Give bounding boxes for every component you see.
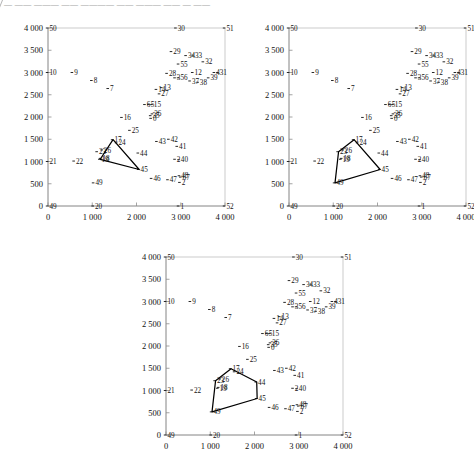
y-tick-label: 2 500 (265, 90, 284, 100)
y-tick-label: 500 (271, 179, 284, 189)
data-point-label: 33 (436, 52, 444, 60)
data-point-label: 8 (212, 306, 216, 314)
y-tick-label: 1 500 (24, 134, 43, 144)
data-point-label: 22 (194, 387, 202, 395)
y-tick-label: 1 000 (24, 157, 43, 167)
data-point-label: 56 (298, 303, 306, 311)
data-point-label: 51 (344, 254, 352, 262)
data-point-label: 43 (159, 138, 167, 146)
x-tick-label: 3 000 (289, 441, 308, 451)
data-point-label: 16 (124, 114, 132, 122)
data-point-label: 2 (182, 179, 186, 187)
x-tick-label: 3 000 (171, 212, 190, 222)
data-point-label: 37 (192, 78, 200, 86)
data-point-label: 1 (298, 432, 302, 440)
data-point-label: 26 (345, 147, 353, 155)
data-point-label: 25 (250, 356, 258, 364)
data-point-label: 27 (161, 90, 169, 98)
y-tick-label: 2 000 (265, 112, 284, 122)
data-point-label: 6 (388, 101, 392, 109)
data-point-label: 2 (300, 408, 304, 416)
data-point-label: 12 (436, 69, 444, 77)
data-point-label: 44 (381, 150, 389, 158)
y-tick-label: 3 500 (24, 45, 43, 55)
x-tick-label: 0 (46, 212, 50, 222)
data-point-label: 16 (365, 114, 373, 122)
data-point-label: 39 (210, 74, 218, 82)
data-point-label: 39 (451, 74, 459, 82)
data-point-label: 27 (402, 90, 410, 98)
x-tick-label: 0 (164, 441, 168, 451)
x-tick-label: 4 000 (215, 212, 234, 222)
data-point-group: 5030511021492015298722232617241819494544… (287, 25, 474, 211)
y-tick-label: 2 000 (142, 341, 161, 351)
data-point-label: 49 (49, 203, 57, 211)
data-point-label: 46 (153, 175, 161, 183)
data-point-label: 45 (382, 166, 390, 174)
y-tick-label: 3 000 (265, 68, 284, 78)
data-point-label: 2 (423, 179, 427, 187)
data-point-label: 32 (446, 58, 454, 66)
data-point-label: 30 (296, 254, 304, 262)
data-point-label: 7 (110, 85, 114, 93)
y-tick-label: 2 500 (142, 319, 161, 329)
data-point-label: 9 (192, 298, 196, 306)
data-point-label: 46 (394, 175, 402, 183)
data-point-label: 22 (317, 158, 325, 166)
x-tick-label: 4 000 (333, 441, 352, 451)
data-point-label: 8 (94, 77, 98, 85)
data-point-label: 19 (220, 385, 228, 393)
data-point-label: 25 (373, 127, 381, 135)
data-point-label: 42 (412, 136, 420, 144)
data-point-label: 52 (467, 203, 474, 211)
header-fragment-text: — —— ——— —— ———— —— ——— —— — —— (4, 0, 210, 9)
data-point-label: 38 (200, 79, 208, 87)
data-point-label: 42 (289, 365, 297, 373)
data-point-label: 8 (335, 77, 339, 85)
data-point-label: 41 (297, 372, 305, 380)
data-point-label: 7 (351, 85, 355, 93)
x-tick-label: 2 000 (245, 441, 264, 451)
data-point-label: 22 (76, 158, 84, 166)
data-point-label: 12 (195, 69, 203, 77)
data-point-label: 20 (336, 203, 344, 211)
data-point-label: 10 (290, 69, 298, 77)
data-point-label: 41 (179, 143, 187, 151)
data-point-label: 29 (173, 48, 181, 56)
data-point-label: 51 (226, 25, 234, 33)
data-point-label: 39 (328, 303, 336, 311)
plot-area-2: 05001 0001 5002 0002 5003 0003 5004 0000… (241, 14, 473, 240)
data-point-label: 2 (418, 156, 422, 164)
data-point-label: 52 (226, 203, 234, 211)
data-point-label: 45 (141, 166, 149, 174)
data-point-label: 12 (313, 298, 321, 306)
y-tick-label: 0 (280, 201, 284, 211)
scatter-panel-1: 05001 0001 5002 0002 5003 0003 5004 0000… (0, 14, 232, 240)
data-point-label: 0 (394, 115, 398, 123)
data-point-label: 55 (421, 61, 429, 69)
data-point-label: 33 (195, 52, 203, 60)
data-point-label: 40 (299, 385, 307, 393)
data-point-label: 52 (344, 432, 352, 440)
data-point-label: 30 (178, 25, 186, 33)
data-point-label: 55 (298, 290, 306, 298)
data-point-label: 40 (422, 156, 430, 164)
data-point-label: 42 (171, 136, 179, 144)
data-point-label: 44 (258, 379, 266, 387)
data-point-label: 45 (259, 395, 267, 403)
y-tick-label: 500 (30, 179, 43, 189)
data-point-label: 41 (420, 143, 428, 151)
data-point-label: 43 (400, 138, 408, 146)
data-point-group: 5030511021492015298722232617241819494544… (164, 254, 352, 440)
data-point-label: 16 (242, 343, 250, 351)
y-tick-label: 1 500 (142, 363, 161, 373)
y-tick-label: 2 000 (24, 112, 43, 122)
y-tick-label: 0 (39, 201, 43, 211)
plot-area-1: 05001 0001 5002 0002 5003 0003 5004 0000… (0, 14, 232, 240)
y-tick-label: 1 000 (265, 157, 284, 167)
data-point-label: 10 (49, 69, 57, 77)
data-point-label: 1 (421, 203, 425, 211)
data-point-label: 6 (265, 330, 269, 338)
data-point-label: 20 (95, 203, 103, 211)
y-tick-label: 1 000 (142, 386, 161, 396)
